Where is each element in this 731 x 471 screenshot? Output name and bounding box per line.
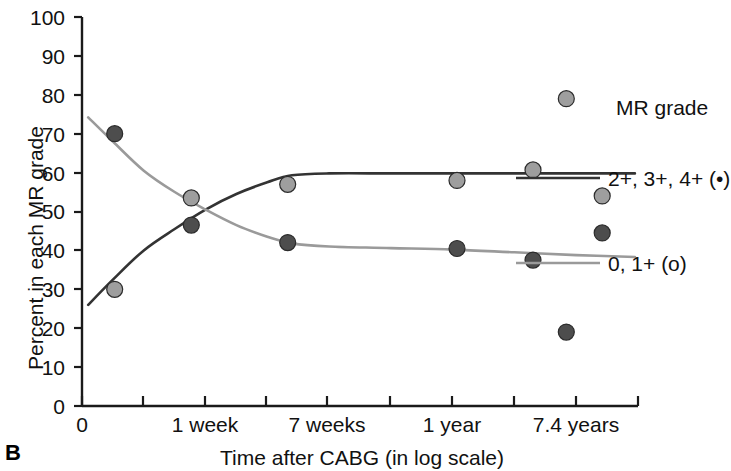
x-tick-label-1-year: 1 year — [397, 414, 507, 435]
data-point — [525, 252, 541, 268]
panel-letter: B — [5, 440, 21, 466]
y-tick-label-50: 50 — [5, 201, 65, 222]
y-tick-label-80: 80 — [5, 85, 65, 106]
series-curves — [88, 117, 635, 305]
series-curve-0 — [88, 173, 635, 305]
x-tick-label-7-4-years: 7.4 years — [508, 414, 644, 435]
data-point — [280, 176, 296, 192]
data-point — [107, 126, 123, 142]
y-tick-label-100: 100 — [5, 7, 65, 28]
y-tick-label-20: 20 — [5, 318, 65, 339]
data-point — [107, 281, 123, 297]
legend-entry-dark-label: 2+, 3+, 4+ (•) — [608, 167, 730, 191]
data-point — [280, 235, 296, 251]
data-point — [558, 91, 574, 107]
y-tick-label-40: 40 — [5, 240, 65, 261]
legend-swatches — [516, 178, 600, 263]
plot-area — [0, 0, 731, 471]
y-tick-label-10: 10 — [5, 357, 65, 378]
data-point — [449, 172, 465, 188]
data-point — [183, 190, 199, 206]
y-tick-label-70: 70 — [5, 124, 65, 145]
y-tick-label-30: 30 — [5, 279, 65, 300]
x-tick-label-7-weeks: 7 weeks — [265, 414, 389, 435]
data-point — [449, 241, 465, 257]
x-axis-ticks — [82, 396, 638, 406]
x-tick-label-1-week: 1 week — [145, 414, 265, 435]
x-tick-label-0: 0 — [52, 414, 112, 435]
axis-lines — [82, 17, 638, 406]
legend-entry-light-label: 0, 1+ (o) — [608, 252, 687, 276]
chart-figure: Percent in each MR grade — [0, 0, 731, 471]
data-point — [183, 217, 199, 233]
data-point — [594, 225, 610, 241]
legend-title: MR grade — [616, 96, 708, 120]
y-tick-label-60: 60 — [5, 163, 65, 184]
data-point — [558, 324, 574, 340]
x-axis-title: Time after CABG (in log scale) — [220, 446, 504, 470]
y-tick-label-90: 90 — [5, 46, 65, 67]
series-markers — [107, 91, 611, 340]
series-curve-1 — [88, 117, 635, 257]
data-point — [525, 162, 541, 178]
